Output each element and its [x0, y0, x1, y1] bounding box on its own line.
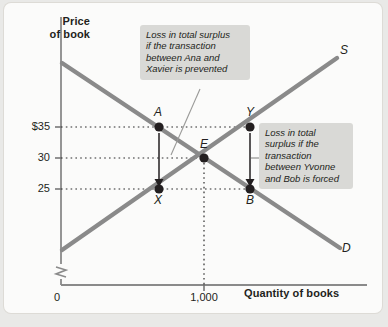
y-tick-label-30: 30 [12, 151, 50, 163]
y-tick-label-35: $35 [12, 120, 50, 132]
data-point-y [245, 122, 254, 131]
y-axis-title-line1: Price [63, 15, 90, 27]
callout-yvonne-line4: between Yvonne [265, 161, 335, 172]
plot-area: Price of book Quantity of books $35 30 2… [4, 3, 382, 313]
callout-yvonne-line2: surplus if the [265, 138, 319, 149]
y-axis-break-icon [56, 267, 66, 277]
point-label-y: Y [246, 105, 254, 119]
point-label-b: B [246, 193, 254, 207]
callout-yvonne-line3: transaction [265, 150, 311, 161]
data-point-e [199, 153, 208, 162]
callout-ana-line4: Xavier is prevented [146, 63, 227, 74]
x-tick-label-0: 0 [45, 291, 69, 303]
callout-ana-line2: if the transaction [146, 40, 216, 51]
callout-ana-line1: Loss in total surplus [146, 29, 230, 40]
y-axis-title-line2: of book [50, 28, 90, 40]
callout-ana-line3: between Ana and [146, 52, 220, 63]
callout-yvonne-line5: and Bob is forced [265, 173, 339, 184]
annotation-callout-yvonne: Loss in total surplus if the transaction… [259, 123, 353, 189]
data-point-a [154, 122, 163, 131]
callout-yvonne-line1: Loss in total [265, 127, 316, 138]
y-axis-title: Price of book [12, 15, 90, 41]
point-label-e: E [200, 137, 208, 151]
x-tick-label-1000: 1,000 [178, 291, 230, 303]
x-axis-title: Quantity of books [244, 287, 339, 300]
supply-curve-label: S [340, 43, 348, 57]
point-label-a: A [154, 105, 162, 119]
demand-curve-label: D [342, 241, 351, 255]
chart-panel: Price of book Quantity of books $35 30 2… [4, 3, 382, 313]
annotation-callout-ana: Loss in total surplus if the transaction… [140, 25, 250, 80]
y-tick-label-25: 25 [12, 182, 50, 194]
point-label-x: X [154, 193, 162, 207]
